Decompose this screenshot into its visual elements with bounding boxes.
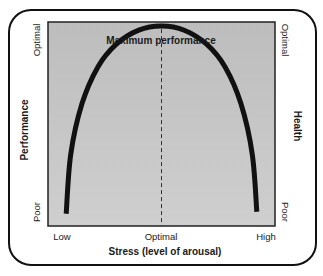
y-right-tick-optimal: Optimal	[280, 24, 291, 57]
y-left-tick-poor: Poor	[31, 202, 42, 222]
x-tick-optimal: Optimal	[145, 231, 178, 242]
y-left-axis-label: Performance	[19, 99, 30, 161]
x-axis-label: Stress (level of arousal)	[109, 246, 222, 257]
y-right-tick-poor: Poor	[280, 202, 291, 222]
chart-title: Maximum performance	[106, 35, 216, 46]
y-left-tick-optimal: Optimal	[31, 24, 42, 57]
x-tick-low: Low	[53, 231, 71, 242]
y-right-axis-label: Health	[292, 111, 303, 142]
stress-performance-chart: Maximum performance Low Optimal High Str…	[0, 0, 323, 276]
x-tick-high: High	[256, 231, 276, 242]
